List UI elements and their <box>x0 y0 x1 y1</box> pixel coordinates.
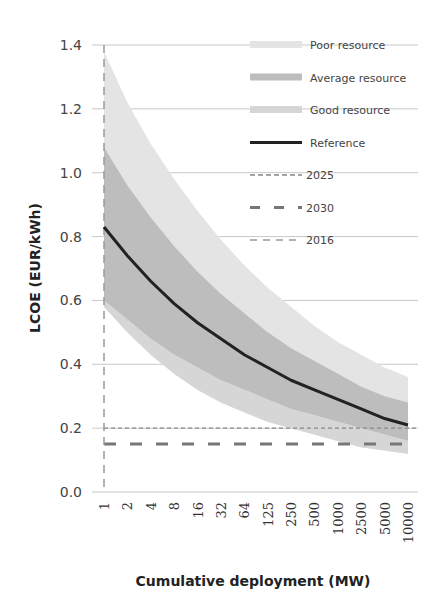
y-tick-label: 0.6 <box>60 292 82 308</box>
x-tick-label: 1000 <box>331 502 346 535</box>
x-tick-label: 32 <box>214 502 229 519</box>
legend-label: 2030 <box>306 202 334 215</box>
y-tick-label: 1.4 <box>60 37 82 53</box>
legend-swatch <box>250 74 302 81</box>
x-tick-label: 5000 <box>378 502 393 535</box>
x-tick-label: 1 <box>97 502 112 510</box>
legend-item: 2025 <box>250 169 334 182</box>
x-tick-label: 10000 <box>401 502 416 543</box>
x-tick-label: 16 <box>191 502 206 519</box>
legend-swatch <box>250 106 302 113</box>
y-tick-label: 1.2 <box>60 101 82 117</box>
y-tick-label: 0.4 <box>60 356 82 372</box>
legend-item: Average resource <box>250 72 406 85</box>
legend-item: 2030 <box>250 202 334 215</box>
x-axis-title: Cumulative deployment (MW) <box>136 573 371 589</box>
legend-label: Good resource <box>310 104 390 117</box>
y-tick-label: 0.8 <box>60 229 82 245</box>
legend-item: Reference <box>250 137 366 150</box>
y-tick-label: 0.0 <box>60 484 82 500</box>
x-tick-label: 250 <box>284 502 299 527</box>
legend-label: 2025 <box>306 169 334 182</box>
x-tick-label: 64 <box>237 502 252 519</box>
lcoe-chart: 0.00.20.40.60.81.01.21.41248163264125250… <box>0 0 430 595</box>
x-tick-label: 8 <box>167 502 182 510</box>
legend-swatch <box>250 41 302 48</box>
x-tick-label: 125 <box>261 502 276 527</box>
y-axis-title: LCOE (EUR/kWh) <box>27 203 43 333</box>
legend-label: 2016 <box>306 234 334 247</box>
legend-label: Reference <box>310 137 366 150</box>
x-tick-label: 500 <box>307 502 322 527</box>
legend-item: Good resource <box>250 104 390 117</box>
legend-label: Average resource <box>310 72 406 85</box>
x-tick-label: 2500 <box>354 502 369 535</box>
x-tick-label: 2 <box>120 502 135 510</box>
x-tick-label: 4 <box>144 502 159 510</box>
legend-item: Poor resource <box>250 39 386 52</box>
y-tick-label: 0.2 <box>60 420 82 436</box>
legend-label: Poor resource <box>310 39 386 52</box>
legend-item: 2016 <box>250 234 334 247</box>
y-tick-label: 1.0 <box>60 165 82 181</box>
